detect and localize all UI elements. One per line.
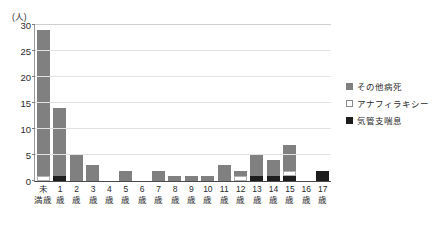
- bar-group: [35, 25, 331, 181]
- stacked-bar-chart: (人) 051015202530 未満歳1歳2歳3歳4歳5歳6歳7歳8歳9歳10…: [0, 0, 439, 231]
- bar-stack[interactable]: [201, 176, 214, 181]
- bar-segment: [267, 160, 280, 176]
- bar-slot: [35, 25, 51, 181]
- bar-segment: [185, 176, 198, 181]
- bar-stack[interactable]: [53, 108, 66, 181]
- y-axis-tick-label: 30: [20, 20, 31, 31]
- legend-item[interactable]: その他病死: [346, 80, 429, 92]
- x-axis-tick-label: 5歳: [118, 184, 134, 205]
- y-axis-tick-mark: [32, 180, 35, 181]
- bar-slot: [282, 25, 298, 181]
- legend-swatch-icon: [346, 117, 353, 124]
- bar-segment: [53, 108, 66, 176]
- x-axis-tick-label: 8歳: [167, 184, 183, 205]
- x-axis-tick-label: 未満歳: [34, 184, 52, 205]
- bar-stack[interactable]: [86, 165, 99, 181]
- bar-segment: [250, 155, 263, 176]
- bar-slot: [216, 25, 232, 181]
- bar-slot: [249, 25, 265, 181]
- bar-segment: [152, 171, 165, 181]
- bar-segment: [316, 171, 329, 181]
- x-axis-tick-label: 17歳: [315, 184, 331, 205]
- y-axis-tick-mark: [32, 128, 35, 129]
- bar-slot: [298, 25, 314, 181]
- bar-slot: [314, 25, 330, 181]
- x-axis-tick-label: 14歳: [265, 184, 281, 205]
- bar-segment: [70, 155, 83, 181]
- gridline: [35, 76, 331, 77]
- y-axis-tick-label: 15: [20, 98, 31, 109]
- bar-stack[interactable]: [267, 160, 280, 181]
- y-axis-tick-label: 0: [26, 176, 31, 187]
- legend-item[interactable]: 気管支喘息: [346, 114, 429, 126]
- bar-segment: [218, 165, 231, 181]
- bar-slot: [199, 25, 215, 181]
- legend-label: アナフィラキシー: [357, 97, 429, 109]
- legend-swatch-icon: [346, 83, 353, 90]
- bar-stack[interactable]: [168, 176, 181, 181]
- x-axis-labels: 未満歳1歳2歳3歳4歳5歳6歳7歳8歳9歳10歳11歳12歳13歳14歳15歳1…: [34, 184, 331, 205]
- y-axis-tick-label: 5: [26, 150, 31, 161]
- bar-stack[interactable]: [119, 171, 132, 181]
- bar-segment: [86, 165, 99, 181]
- bar-segment: [119, 171, 132, 181]
- x-axis-tick-label: 7歳: [150, 184, 166, 205]
- gridline: [35, 50, 331, 51]
- bar-slot: [84, 25, 100, 181]
- gridline: [35, 128, 331, 129]
- y-axis-tick-label: 10: [20, 124, 31, 135]
- bar-stack[interactable]: [250, 155, 263, 181]
- bar-slot: [183, 25, 199, 181]
- bar-segment: [267, 176, 280, 181]
- bar-slot: [232, 25, 248, 181]
- x-axis-tick-label: 3歳: [85, 184, 101, 205]
- x-axis-tick-label: 13歳: [249, 184, 265, 205]
- x-axis-tick-label: 15歳: [282, 184, 298, 205]
- bar-stack[interactable]: [283, 145, 296, 181]
- bar-segment: [201, 176, 214, 181]
- y-axis-tick-mark: [32, 50, 35, 51]
- bar-stack[interactable]: [185, 176, 198, 181]
- plot-area: 051015202530: [34, 25, 331, 182]
- bar-stack[interactable]: [316, 171, 329, 181]
- bar-stack[interactable]: [234, 171, 247, 181]
- y-axis-tick-mark: [32, 76, 35, 77]
- bar-segment: [53, 176, 66, 181]
- x-axis-tick-label: 9歳: [183, 184, 199, 205]
- bar-slot: [134, 25, 150, 181]
- bar-slot: [265, 25, 281, 181]
- x-axis-tick-label: 1歳: [52, 184, 68, 205]
- y-axis-tick-label: 25: [20, 46, 31, 57]
- y-axis-tick-mark: [32, 102, 35, 103]
- x-axis-tick-label: 4歳: [101, 184, 117, 205]
- legend-label: その他病死: [357, 80, 402, 92]
- x-axis-tick-label: 11歳: [216, 184, 232, 205]
- legend-item[interactable]: アナフィラキシー: [346, 97, 429, 109]
- bar-segment: [37, 176, 50, 181]
- bar-segment: [250, 176, 263, 181]
- bar-segment: [234, 176, 247, 181]
- bar-slot: [51, 25, 67, 181]
- bar-stack[interactable]: [70, 155, 83, 181]
- bar-stack[interactable]: [152, 171, 165, 181]
- y-axis-tick-mark: [32, 154, 35, 155]
- x-axis-tick-label: 12歳: [232, 184, 248, 205]
- bar-segment: [283, 176, 296, 181]
- x-axis-tick-label: 6歳: [134, 184, 150, 205]
- legend-swatch-icon: [346, 100, 353, 107]
- x-axis-tick-label: 10歳: [200, 184, 216, 205]
- gridline: [35, 102, 331, 103]
- bar-slot: [101, 25, 117, 181]
- y-axis-tick-label: 20: [20, 72, 31, 83]
- gridline: [35, 154, 331, 155]
- bar-segment: [283, 145, 296, 171]
- bar-stack[interactable]: [218, 165, 231, 181]
- bar-stack[interactable]: [37, 30, 50, 181]
- gridline: [35, 24, 331, 25]
- y-axis-tick-mark: [32, 24, 35, 25]
- bar-segment: [168, 176, 181, 181]
- x-axis-tick-label: 2歳: [68, 184, 84, 205]
- x-axis-tick-label: 16歳: [298, 184, 314, 205]
- legend-label: 気管支喘息: [357, 114, 402, 126]
- bar-slot: [167, 25, 183, 181]
